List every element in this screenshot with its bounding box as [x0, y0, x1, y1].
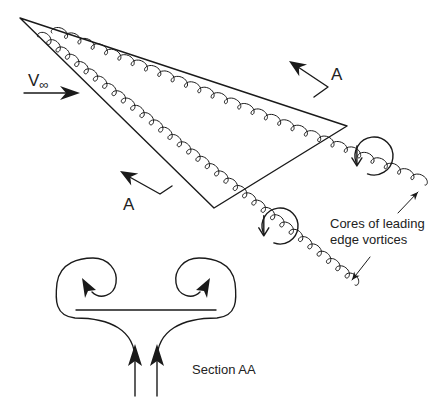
section-marker-label: A — [123, 195, 135, 214]
delta-wing-planform — [20, 18, 347, 208]
section-marker-line-1 — [295, 65, 328, 97]
section-aa-label: Section AA — [192, 362, 256, 377]
freestream-velocity: V∞ — [24, 71, 80, 100]
vortex-core-lower — [37, 32, 358, 285]
right-vortex-arrowhead-icon — [196, 278, 210, 298]
right-vortex-streamline — [157, 258, 236, 360]
section-marker-line-2 — [126, 175, 172, 194]
section-marker-arrowhead-icon — [120, 171, 138, 186]
callout-label: Cores of leading edge vortices — [330, 216, 428, 247]
rotation-arrow-icon — [259, 216, 269, 236]
section-marker-arrowhead-icon — [289, 61, 307, 76]
section-marker-label: A — [331, 65, 343, 84]
left-vortex-arrowhead-icon — [82, 278, 96, 298]
section-aa-markers: AA — [120, 61, 343, 214]
section-aa-view: Section AA — [56, 258, 256, 396]
left-vortex-streamline — [56, 258, 135, 360]
vortex-core-upper — [51, 28, 427, 186]
delta-wing-vortex-diagram: V∞ AA Cores of leading edge vortices Sec… — [0, 0, 446, 406]
freestream-label: V∞ — [28, 71, 49, 92]
